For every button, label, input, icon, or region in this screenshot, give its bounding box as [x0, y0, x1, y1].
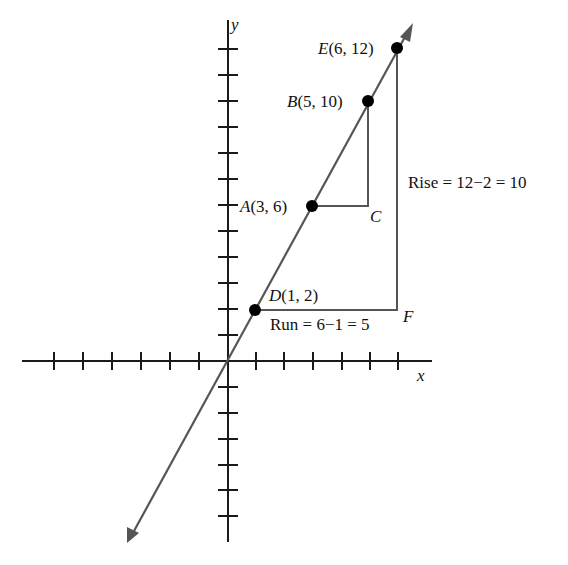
point-d-label: D(1, 2) — [268, 286, 318, 305]
x-axis-label: x — [416, 366, 425, 385]
point-c-label: C — [370, 207, 382, 226]
y-axis — [218, 20, 238, 542]
rise-annotation: Rise = 12−2 = 10 — [408, 173, 527, 192]
point-f-label: F — [402, 307, 414, 326]
point-a — [306, 200, 318, 212]
slope-diagram: y x E(6, 12) B(5, 10) A(3, 6) D(1, 2) C … — [0, 0, 568, 565]
point-e-label: E(6, 12) — [317, 39, 374, 58]
point-a-label: A(3, 6) — [239, 197, 287, 216]
arrowhead-up-icon — [400, 23, 413, 42]
point-b-label: B(5, 10) — [287, 92, 343, 111]
point-b — [362, 95, 374, 107]
y-axis-label: y — [229, 15, 239, 34]
run-annotation: Run = 6−1 = 5 — [270, 315, 370, 334]
arrowhead-down-icon — [127, 527, 139, 543]
point-e — [391, 42, 403, 54]
point-d — [249, 304, 261, 316]
